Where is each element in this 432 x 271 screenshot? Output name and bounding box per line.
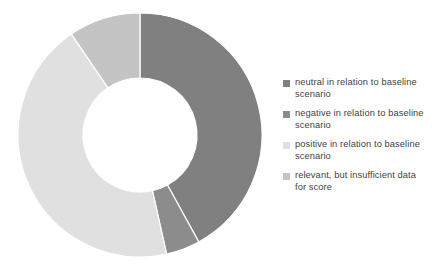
legend-item-label: relevant, but insufficient data for scor… bbox=[295, 169, 429, 193]
donut-slice-group bbox=[18, 13, 262, 257]
legend-item[interactable]: neutral in relation to baseline scenario bbox=[283, 76, 429, 100]
legend-color-swatch bbox=[283, 80, 290, 87]
legend-item-label: neutral in relation to baseline scenario bbox=[295, 76, 429, 100]
legend-color-swatch bbox=[283, 111, 290, 118]
legend-color-swatch bbox=[283, 173, 290, 180]
donut-chart-svg bbox=[0, 0, 272, 271]
legend-item[interactable]: relevant, but insufficient data for scor… bbox=[283, 169, 429, 193]
chart-root: neutral in relation to baseline scenario… bbox=[0, 0, 432, 271]
legend-item-label: negative in relation to baseline scenari… bbox=[295, 107, 429, 131]
legend-item[interactable]: positive in relation to baseline scenari… bbox=[283, 138, 429, 162]
chart-legend: neutral in relation to baseline scenario… bbox=[283, 76, 429, 200]
legend-color-swatch bbox=[283, 142, 290, 149]
legend-item-label: positive in relation to baseline scenari… bbox=[295, 138, 429, 162]
donut-chart-area bbox=[0, 0, 272, 271]
legend-item[interactable]: negative in relation to baseline scenari… bbox=[283, 107, 429, 131]
